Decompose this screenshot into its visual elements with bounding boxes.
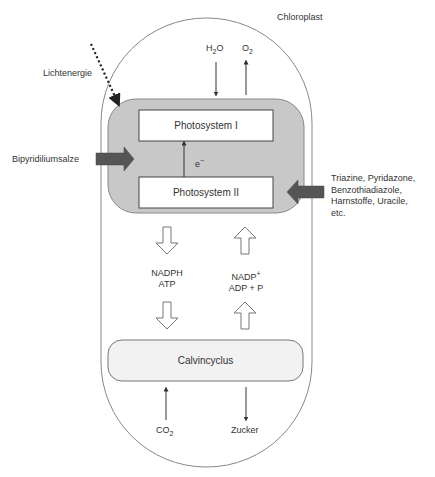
calvin-cycle-label: Calvincyclus xyxy=(108,340,303,381)
inhibitors-label: Triazine, Pyridazone, Benzothiadiazole, … xyxy=(331,173,415,219)
nadp-base: NADP xyxy=(231,272,256,282)
nadp-hollow-arrow-bottom xyxy=(234,302,256,329)
inhibitor-line: Triazine, Pyridazone, xyxy=(331,173,415,185)
electron-label: e− xyxy=(195,155,204,170)
light-energy-arrow xyxy=(91,44,117,101)
oxygen-label: O2 xyxy=(242,43,253,57)
sugar-label: Zucker xyxy=(231,425,259,436)
nadp-superscript: + xyxy=(256,270,260,277)
chloroplast-outline xyxy=(101,18,312,467)
atp-text: ATP xyxy=(150,279,184,290)
inhibitor-line: Benzothiadiazole, xyxy=(331,185,415,197)
electron-superscript: − xyxy=(200,157,204,164)
nadp-text: NADP+ xyxy=(225,268,267,283)
nadph-atp-label: NADPH ATP xyxy=(150,268,184,290)
light-energy-label: Lichtenergie xyxy=(43,68,92,79)
nadph-text: NADPH xyxy=(150,268,184,279)
inhibitor-line: etc. xyxy=(331,208,415,220)
photosystem-1-label: Photosystem I xyxy=(139,110,273,141)
nadp-hollow-arrow-top xyxy=(234,227,256,254)
adp-text: ADP + P xyxy=(225,283,267,294)
oxygen-subscript: 2 xyxy=(249,48,253,55)
bipyridilium-label: Bipyridiliumsalze xyxy=(12,154,79,165)
co2-text: CO xyxy=(156,425,170,435)
co2-label: CO2 xyxy=(156,425,173,439)
inhibitor-line: Harnstoffe, Uracile, xyxy=(331,196,415,208)
nadp-adp-label: NADP+ ADP + P xyxy=(225,268,267,294)
chloroplast-label: Chloroplast xyxy=(277,12,323,23)
co2-subscript: 2 xyxy=(170,430,174,437)
water-text-tail: O xyxy=(216,43,223,53)
oxygen-text: O xyxy=(242,43,249,53)
photosystem-2-label: Photosystem II xyxy=(139,177,273,208)
nadph-hollow-arrow-top xyxy=(156,227,178,254)
nadph-hollow-arrow-bottom xyxy=(156,302,178,329)
water-label: H2O xyxy=(206,43,223,57)
